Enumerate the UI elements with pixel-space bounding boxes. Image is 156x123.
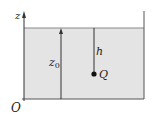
origin-label: O: [11, 101, 21, 115]
z-axis-arrow-icon: [22, 11, 26, 18]
point-q-label: Q: [99, 68, 108, 81]
point-q-dot: [91, 71, 96, 76]
water-region: [24, 28, 144, 99]
z-axis-label: z: [14, 10, 21, 21]
container-diagram: z O z0 h Q: [0, 0, 156, 123]
depth-label: h: [96, 45, 103, 58]
